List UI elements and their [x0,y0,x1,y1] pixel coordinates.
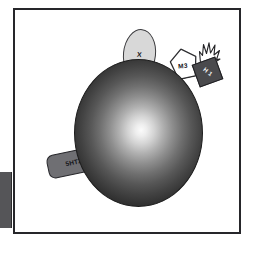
cell-body-sphere [74,59,203,207]
figure-frame: 5HT2C X M3 H 1 [13,8,241,234]
edge-fragment-block [0,172,12,228]
figure-canvas: 5HT2C X M3 H 1 [0,0,254,254]
receptor-h1-label: H 1 [202,67,214,78]
receptor-m3-label: M3 [178,63,188,70]
figure-inner-area: 5HT2C X M3 H 1 [15,10,239,232]
receptor-x-label: X [137,50,143,57]
